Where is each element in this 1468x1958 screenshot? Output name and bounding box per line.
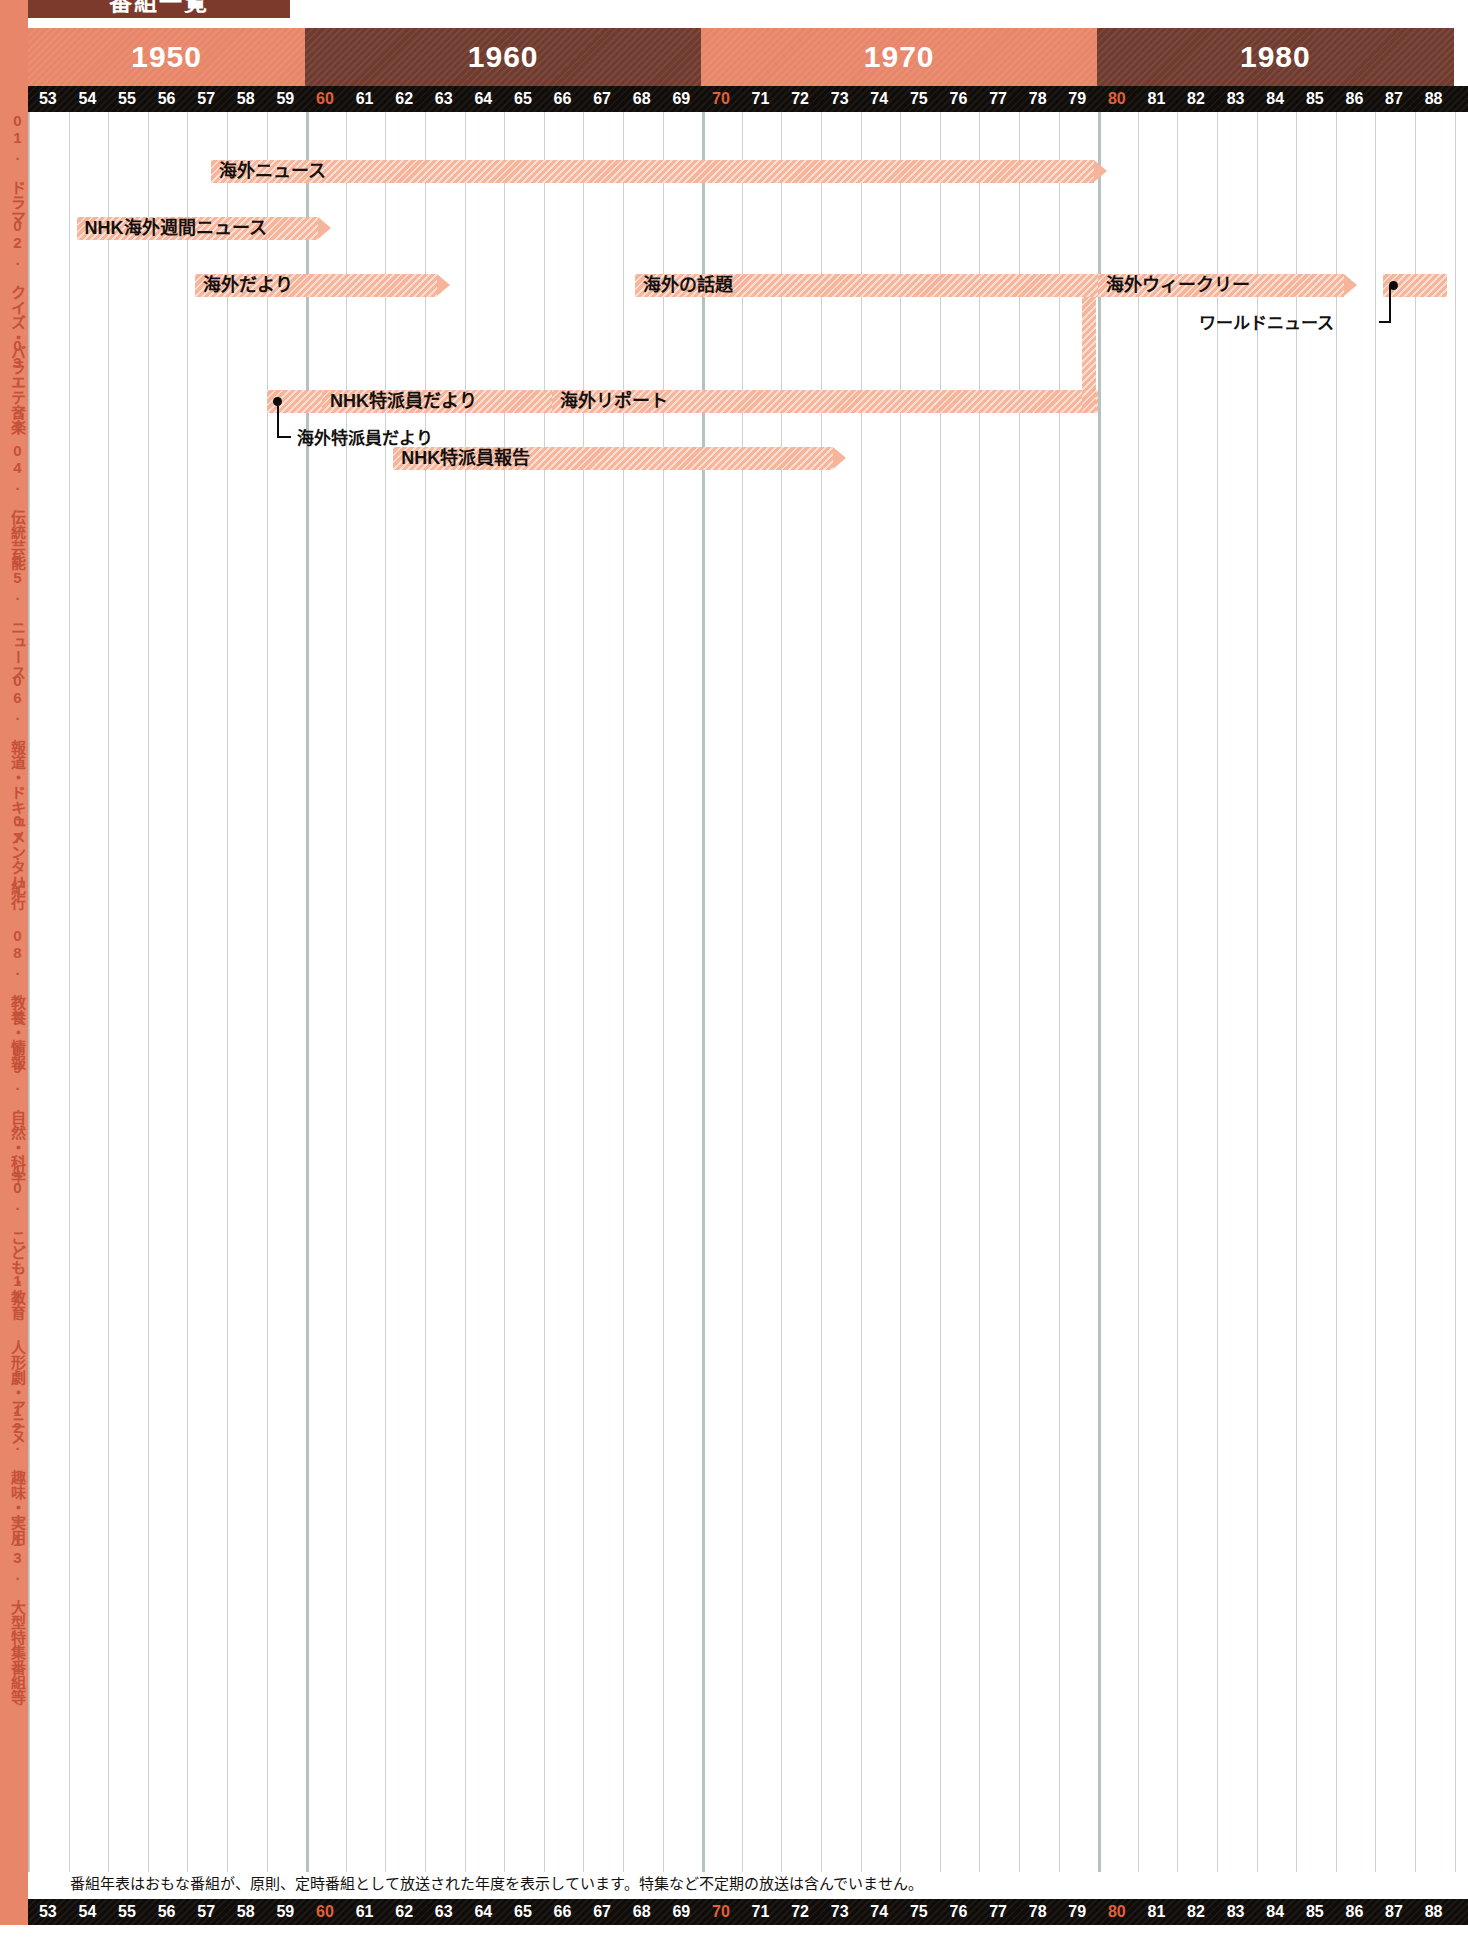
sidebar-item-12[interactable]: 12. 趣味・実用: [0, 1402, 28, 1545]
year-tick-bottom-69: 69: [662, 1903, 702, 1921]
gridline-1982: [1177, 112, 1178, 1872]
year-tick-bottom-61: 61: [345, 1903, 385, 1921]
gridline-1960: [306, 112, 309, 1872]
year-tick-bottom-67: 67: [582, 1903, 622, 1921]
page-title: 番組一覧: [28, 0, 290, 18]
year-tick-top-72: 72: [780, 90, 820, 108]
year-tick-top-55: 55: [107, 90, 147, 108]
bar-label: 海外ウィークリー: [1106, 274, 1250, 297]
gridline-1980: [1098, 112, 1101, 1872]
year-tick-top-73: 73: [820, 90, 860, 108]
sidebar-item-3[interactable]: 03. 音楽: [0, 337, 28, 435]
year-tick-bottom-88: 88: [1414, 1903, 1454, 1921]
gridline-1973: [821, 112, 822, 1872]
gridline-1981: [1138, 112, 1139, 1872]
year-tick-top-68: 68: [622, 90, 662, 108]
year-tick-top-70: 70: [701, 90, 741, 108]
year-tick-bottom-86: 86: [1335, 1903, 1375, 1921]
bar-label: NHK海外週間ニュース: [85, 217, 267, 240]
bar-label: 海外ニュース: [219, 160, 326, 183]
year-tick-top-60: 60: [305, 90, 345, 108]
gridline-1975: [900, 112, 901, 1872]
gridline-1987: [1375, 112, 1376, 1872]
year-tick-top-54: 54: [68, 90, 108, 108]
gridline-1968: [623, 112, 624, 1872]
year-tick-bottom-56: 56: [147, 1903, 187, 1921]
gridline-1961: [346, 112, 347, 1872]
bar-label: NHK特派員報告: [401, 447, 530, 470]
gridline-1977: [979, 112, 980, 1872]
sidebar-item-1[interactable]: 01. ドラマ: [0, 112, 28, 225]
gridline-1984: [1257, 112, 1258, 1872]
gridline-1969: [663, 112, 664, 1872]
callout-label: ワールドニュース: [1199, 309, 1334, 334]
year-tick-bottom-81: 81: [1137, 1903, 1177, 1921]
year-axis-bottom: 5354555657585960616263646566676869707172…: [28, 1899, 1468, 1925]
year-tick-bottom-74: 74: [859, 1903, 899, 1921]
year-tick-bottom-60: 60: [305, 1903, 345, 1921]
year-tick-top-84: 84: [1255, 90, 1295, 108]
gridline-1957: [187, 112, 188, 1872]
decade-label-1950: 1950: [28, 28, 305, 86]
year-tick-bottom-72: 72: [780, 1903, 820, 1921]
category-rail: 01. ドラマ02. クイズ・バラエティー03. 音楽04. 伝統芸能05. ニ…: [0, 112, 28, 1872]
series-connector: [1082, 297, 1096, 413]
gridline-1988: [1415, 112, 1416, 1872]
year-tick-top-77: 77: [978, 90, 1018, 108]
decade-label-1960: 1960: [305, 28, 701, 86]
year-tick-bottom-77: 77: [978, 1903, 1018, 1921]
decade-label-1980: 1980: [1097, 28, 1453, 86]
sidebar-item-5[interactable]: 05. ニュース: [0, 552, 28, 680]
gridline-1962: [385, 112, 386, 1872]
year-tick-bottom-71: 71: [741, 1903, 781, 1921]
year-tick-bottom-82: 82: [1176, 1903, 1216, 1921]
gridline-1978: [1019, 112, 1020, 1872]
year-tick-bottom-80: 80: [1097, 1903, 1137, 1921]
sidebar-item-7[interactable]: 07. 紀行: [0, 812, 28, 910]
gridline-1976: [940, 112, 941, 1872]
year-tick-top-83: 83: [1216, 90, 1256, 108]
decade-band: 1950196019701980: [28, 28, 1468, 86]
year-tick-bottom-78: 78: [1018, 1903, 1058, 1921]
year-tick-top-66: 66: [543, 90, 583, 108]
year-tick-bottom-55: 55: [107, 1903, 147, 1921]
year-tick-top-75: 75: [899, 90, 939, 108]
gridline-1954: [69, 112, 70, 1872]
year-tick-bottom-57: 57: [186, 1903, 226, 1921]
series-start-dot: [273, 397, 282, 406]
year-tick-top-87: 87: [1374, 90, 1414, 108]
timeline-plot: 海外ニュースNHK海外週間ニュース海外だより海外の話題海外ウィークリーNHK特派…: [28, 112, 1468, 1872]
year-tick-top-64: 64: [464, 90, 504, 108]
gridline-1956: [148, 112, 149, 1872]
footer-note: 番組年表はおもな番組が、原則、定時番組として放送された年度を表示しています。特集…: [70, 1872, 923, 1893]
year-tick-top-56: 56: [147, 90, 187, 108]
year-tick-bottom-79: 79: [1057, 1903, 1097, 1921]
gridline-1972: [781, 112, 782, 1872]
sidebar-item-4[interactable]: 04. 伝統芸能: [0, 442, 28, 570]
decade-label-1970: 1970: [701, 28, 1097, 86]
year-tick-bottom-66: 66: [543, 1903, 583, 1921]
year-tick-top-82: 82: [1176, 90, 1216, 108]
gridline-1971: [742, 112, 743, 1872]
gridline-1964: [465, 112, 466, 1872]
year-tick-bottom-73: 73: [820, 1903, 860, 1921]
gridline-1970: [702, 112, 705, 1872]
year-tick-bottom-70: 70: [701, 1903, 741, 1921]
year-tick-bottom-62: 62: [384, 1903, 424, 1921]
bar-label: 海外だより: [203, 274, 293, 297]
year-tick-top-81: 81: [1137, 90, 1177, 108]
gridline-1966: [544, 112, 545, 1872]
year-tick-top-69: 69: [662, 90, 702, 108]
year-tick-bottom-76: 76: [939, 1903, 979, 1921]
year-tick-top-63: 63: [424, 90, 464, 108]
callout-label: 海外特派員だより: [297, 424, 433, 449]
year-tick-top-80: 80: [1097, 90, 1137, 108]
year-tick-top-58: 58: [226, 90, 266, 108]
year-tick-bottom-59: 59: [266, 1903, 306, 1921]
sidebar-item-13[interactable]: 13. 大型特集番組等: [0, 1532, 28, 1705]
timeline-bar[interactable]: [211, 160, 1094, 183]
gridline-1953: [29, 112, 30, 1872]
gridline-1985: [1296, 112, 1297, 1872]
year-tick-top-79: 79: [1057, 90, 1097, 108]
year-tick-top-71: 71: [741, 90, 781, 108]
